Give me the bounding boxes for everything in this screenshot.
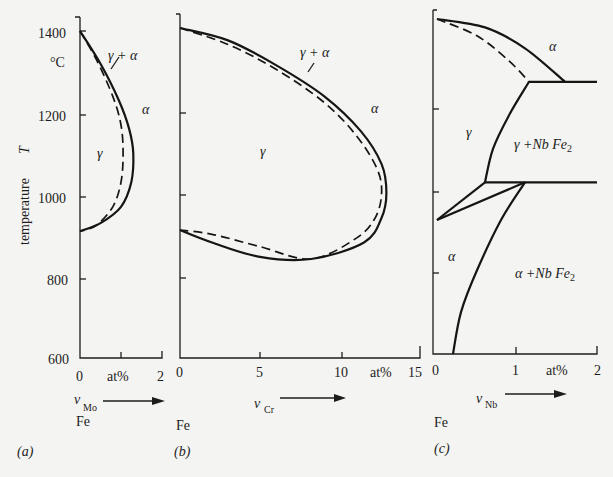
region-c-alpha-nbfe2: α +Nb Fe2 xyxy=(515,266,575,283)
panel-c-series-1 xyxy=(437,19,565,82)
panel-label-c: (c) xyxy=(434,441,450,457)
ytick-label-600: 600 xyxy=(48,352,69,367)
region-c-alpha-nbfe2-sub: 2 xyxy=(570,272,575,283)
ytick-label-1200: 1200 xyxy=(38,109,66,124)
y-axis-title: temperature T xyxy=(17,145,32,245)
region-b-gamma-alpha: γ + α xyxy=(300,45,330,60)
ytick-unit: °C xyxy=(50,55,65,70)
xlabel-a-sub: Mo xyxy=(83,402,97,413)
panel-c-series-3 xyxy=(485,82,529,183)
xlabel-b-sub: Cr xyxy=(264,404,275,415)
fe-label-a: Fe xyxy=(76,414,90,429)
xunit-b: at% xyxy=(370,365,392,380)
region-a-gamma: γ xyxy=(97,146,103,161)
arrow-c-head xyxy=(554,390,567,398)
phase-diagram-figure: 1400 °C 1200 1000 800 600 temperature T … xyxy=(0,0,613,477)
region-c-gamma: γ xyxy=(466,125,472,140)
xtick-label-b-5: 5 xyxy=(256,365,263,380)
fe-label-b: Fe xyxy=(176,418,190,433)
xtick-label-a-0: 0 xyxy=(76,369,83,384)
arrow-b-head xyxy=(334,394,346,402)
xunit-a: at% xyxy=(107,369,129,384)
panel-a: 1400 °C 1200 1000 800 600 temperature T … xyxy=(17,17,165,460)
xtick-label-b-0: 0 xyxy=(176,365,183,380)
ytick-label-1400: 1400 xyxy=(38,26,66,41)
y-axis-title-text: temperature xyxy=(17,178,32,245)
fe-label-c: Fe xyxy=(434,415,448,430)
xtick-label-c-0: 0 xyxy=(432,363,439,378)
xtick-label-c-2: 2 xyxy=(594,363,601,378)
arrow-a-head xyxy=(152,397,165,405)
region-c-gamma-nbfe2-text: γ +Nb Fe xyxy=(514,137,567,152)
panel-c-series-0 xyxy=(437,19,529,82)
panel-b: 0 5 10 at% 15 ν Cr Fe (b) γ + α α γ xyxy=(174,14,422,460)
region-a-gamma-alpha: γ + α xyxy=(108,48,138,63)
xlabel-a-nu: ν xyxy=(74,392,81,407)
xtick-label-b-10: 10 xyxy=(334,365,348,380)
region-c-alpha-top: α xyxy=(549,39,557,54)
panel-b-gamma-boundary-dashed xyxy=(180,28,382,259)
panel-c: 0 1 at% 2 ν Nb Fe (c) α γ γ +Nb Fe2 α α … xyxy=(432,10,601,457)
panel-c-boundaries xyxy=(437,19,597,354)
region-c-alpha-low: α xyxy=(448,249,456,264)
panel-a-axes xyxy=(75,17,162,358)
panel-label-a: (a) xyxy=(17,444,34,460)
region-b-gamma: γ xyxy=(260,144,266,159)
region-a-alpha: α xyxy=(142,102,150,117)
region-c-alpha-nbfe2-text: α +Nb Fe xyxy=(515,266,570,281)
ytick-label-1000: 1000 xyxy=(38,191,66,206)
xtick-label-b-15: 15 xyxy=(408,365,422,380)
panel-c-series-5 xyxy=(437,182,485,220)
xlabel-c-sub: Nb xyxy=(485,399,497,410)
panel-a-yticks xyxy=(80,31,121,358)
xtick-label-a-2: 2 xyxy=(157,369,164,384)
panel-label-b: (b) xyxy=(174,444,191,460)
y-axis-title-var: T xyxy=(17,145,32,154)
xunit-c: at% xyxy=(546,363,568,378)
panel-b-alpha-boundary-solid xyxy=(180,28,386,260)
leader-b xyxy=(308,63,314,72)
region-c-gamma-nbfe2-sub: 2 xyxy=(567,143,572,154)
region-b-alpha: α xyxy=(371,101,379,116)
ytick-label-800: 800 xyxy=(47,273,68,288)
xtick-label-c-1: 1 xyxy=(512,363,519,378)
panel-b-axes xyxy=(176,14,420,358)
xlabel-b-nu: ν xyxy=(254,396,261,411)
xlabel-c-nu: ν xyxy=(476,391,483,406)
region-c-gamma-nbfe2: γ +Nb Fe2 xyxy=(514,137,572,154)
